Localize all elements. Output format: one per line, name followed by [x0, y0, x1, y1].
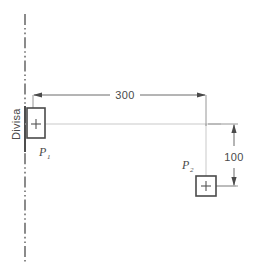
boundary-label-divisa: Divisa — [10, 108, 22, 140]
point-marker-p1[interactable] — [27, 108, 45, 138]
technical-drawing-canvas: 300 100 P 1 — [0, 0, 256, 277]
dimension-100-value: 100 — [224, 151, 244, 163]
p2-label-letter: P — [181, 158, 190, 172]
point-marker-p2[interactable] — [196, 176, 216, 196]
p1-label-letter: P — [38, 145, 47, 159]
diagram-svg: 300 100 P 1 — [0, 0, 256, 277]
p2-label-subscript: 2 — [190, 166, 194, 174]
dimension-300-value: 300 — [115, 89, 135, 101]
p1-label-subscript: 1 — [47, 153, 51, 161]
